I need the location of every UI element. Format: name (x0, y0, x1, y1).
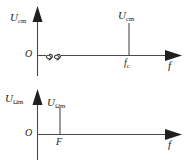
modulating-x-axis-label: f (168, 139, 171, 150)
carrier-spectrum-panel: Ucm O Ucm fc f (0, 0, 192, 84)
carrier-x-axis-label: f (168, 60, 171, 71)
y-axis-arrowhead (33, 89, 43, 105)
carrier-amplitude-label: Ucm (118, 10, 134, 21)
carrier-spectrum-axes (0, 0, 192, 84)
spectrum-figure: Ucm O Ucm fc f UΩm O UΩm F (0, 0, 192, 168)
modulating-origin-label: O (25, 128, 32, 138)
axis-break-symbol-2 (54, 54, 60, 60)
modulating-spectrum-panel: UΩm O UΩm F f (0, 84, 192, 168)
y-axis-arrowhead (33, 6, 43, 22)
carrier-y-axis-label: Ucm (10, 12, 26, 23)
modulating-frequency-tick-label: F (56, 137, 62, 147)
modulating-spectrum-axes (0, 84, 192, 168)
carrier-frequency-tick-label: fc (124, 58, 130, 68)
axis-break-symbol-1 (46, 54, 52, 60)
modulating-amplitude-label: UΩm (47, 97, 65, 108)
modulating-y-axis-label: UΩm (5, 93, 23, 104)
carrier-origin-label: O (25, 49, 32, 59)
